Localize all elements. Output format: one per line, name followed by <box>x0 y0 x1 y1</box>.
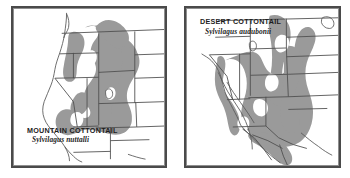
boundary-sd-ne <box>135 77 165 78</box>
boundary-tx-ok <box>110 140 149 141</box>
boundary-az-mex <box>73 151 110 152</box>
range-shading-lobe-southwest <box>70 92 89 115</box>
map-panel-mountain-cottontail: MOUNTAIN COTTONTAIL Sylvilagus nuttalli <box>0 0 175 178</box>
map-panel-desert-cottontail: DESERT COTTONTAIL Sylvilagus audubonii <box>175 0 350 178</box>
map-frame: DESERT COTTONTAIL Sylvilagus audubonii <box>184 6 341 168</box>
boundary-ks-ok <box>137 126 165 127</box>
gulf-coast-inlet <box>128 154 146 159</box>
boundary-or-ca <box>55 77 99 78</box>
baja-tip <box>65 146 83 162</box>
desert-cottontail-range-map <box>186 8 339 166</box>
pacific-coastline <box>43 13 70 161</box>
range-map-figure: MOUNTAIN COTTONTAIL Sylvilagus nuttalli <box>0 0 350 178</box>
boundary-ne-ks <box>135 102 165 103</box>
mountain-cottontail-range-map <box>13 8 165 166</box>
boundary-co-ks <box>136 103 137 127</box>
map-frame: MOUNTAIN COTTONTAIL Sylvilagus nuttalli <box>11 6 167 168</box>
gulf-coast-texas <box>301 133 332 155</box>
boundary-wa-or <box>215 36 250 37</box>
boundary-nd-sd <box>135 54 165 55</box>
